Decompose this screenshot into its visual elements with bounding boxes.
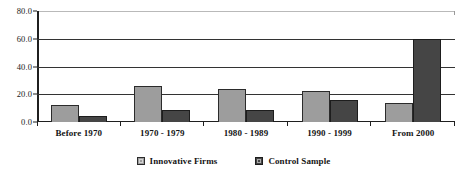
y-tick-label: 40.0 [17, 62, 32, 72]
category-label: 1970 - 1979 [121, 128, 205, 142]
legend-swatch-icon [255, 157, 263, 165]
bar-group [121, 11, 205, 122]
legend-item[interactable]: Control Sample [255, 156, 330, 166]
category-tick [37, 122, 38, 126]
bar[interactable] [302, 91, 330, 122]
category-tick [120, 122, 121, 126]
bar-group [204, 11, 288, 122]
bar-group [37, 11, 121, 122]
bars-row [204, 11, 288, 122]
y-tick-label: 20.0 [17, 89, 32, 99]
bar-groups [37, 11, 455, 122]
category-label: Before 1970 [37, 128, 121, 142]
y-tick-label: 60.0 [17, 34, 32, 44]
category-label: 1980 - 1989 [204, 128, 288, 142]
category-tick [454, 122, 455, 126]
bar[interactable] [385, 103, 413, 122]
bar[interactable] [218, 89, 246, 122]
bars-row [288, 11, 372, 122]
legend-label: Control Sample [268, 156, 330, 166]
bar[interactable] [79, 116, 107, 122]
legend-swatch-icon [137, 157, 145, 165]
bars-row [37, 11, 121, 122]
legend-label: Innovative Firms [150, 156, 218, 166]
category-axis-labels: Before 19701970 - 19791980 - 19891990 - … [37, 128, 455, 142]
chart-legend: Innovative FirmsControl Sample [0, 156, 467, 166]
bar[interactable] [246, 110, 274, 122]
bar[interactable] [162, 110, 190, 122]
category-tick [287, 122, 288, 126]
y-tick-label: 0.0 [21, 117, 32, 127]
plot-area: 0.020.040.060.080.0 [37, 11, 455, 122]
bar-group [371, 11, 455, 122]
bar[interactable] [413, 39, 441, 122]
bars-row [121, 11, 205, 122]
bars-row [371, 11, 455, 122]
category-label: From 2000 [371, 128, 455, 142]
bar-chart: 0.020.040.060.080.0 Before 19701970 - 19… [0, 0, 467, 182]
y-tick-label: 80.0 [17, 6, 32, 16]
bar[interactable] [134, 86, 162, 122]
category-label: 1990 - 1999 [288, 128, 372, 142]
category-tick [203, 122, 204, 126]
bar[interactable] [330, 100, 358, 122]
bar[interactable] [51, 105, 79, 122]
bar-group [288, 11, 372, 122]
category-tick [370, 122, 371, 126]
legend-item[interactable]: Innovative Firms [137, 156, 218, 166]
